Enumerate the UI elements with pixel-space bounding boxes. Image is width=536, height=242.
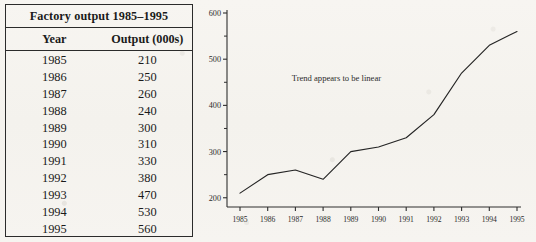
cell-output: 380 xyxy=(103,170,192,187)
x-tick-label: 1988 xyxy=(316,215,331,224)
column-header-output: Output (000s) xyxy=(103,28,192,50)
x-axis: 1985198619871988198919901991199219931994… xyxy=(227,207,525,224)
y-axis: 200300400500600 xyxy=(209,9,227,207)
cell-year: 1987 xyxy=(6,86,103,103)
cell-output: 260 xyxy=(103,86,192,103)
cell-year: 1989 xyxy=(6,120,103,137)
cell-year: 1988 xyxy=(6,103,103,120)
cell-output: 330 xyxy=(103,153,192,170)
output-line-chart: 200300400500600 198519861987198819891990… xyxy=(196,0,536,242)
cell-year: 1995 xyxy=(6,221,103,238)
table-row: 1989300 xyxy=(6,120,192,137)
table-header-row: Year Output (000s) xyxy=(6,28,192,51)
cell-year: 1985 xyxy=(6,52,103,69)
table-row: 1995560 xyxy=(6,221,192,238)
cell-year: 1993 xyxy=(6,187,103,204)
x-tick-label: 1995 xyxy=(509,215,524,224)
series-output xyxy=(240,31,517,193)
cell-year: 1991 xyxy=(6,153,103,170)
table-row: 1993470 xyxy=(6,187,192,204)
factory-output-table: Factory output 1985–1995 Year Output (00… xyxy=(5,4,193,237)
table-row: 1988240 xyxy=(6,103,192,120)
cell-output: 470 xyxy=(103,187,192,204)
y-tick-label: 300 xyxy=(209,148,221,157)
cell-year: 1994 xyxy=(6,204,103,221)
cell-output: 250 xyxy=(103,69,192,86)
table-row: 1994530 xyxy=(6,204,192,221)
x-tick-label: 1986 xyxy=(260,215,275,224)
cell-output: 300 xyxy=(103,120,192,137)
cell-output: 530 xyxy=(103,204,192,221)
table-row: 1987260 xyxy=(6,86,192,103)
x-tick-label: 1994 xyxy=(482,215,497,224)
cell-output: 240 xyxy=(103,103,192,120)
table-row: 1990310 xyxy=(6,136,192,153)
cell-year: 1990 xyxy=(6,136,103,153)
column-header-year: Year xyxy=(6,28,103,50)
y-tick-label: 500 xyxy=(209,55,221,64)
y-tick-label: 200 xyxy=(209,194,221,203)
table-body: 1985210198625019872601988240198930019903… xyxy=(6,51,192,238)
x-tick-label: 1987 xyxy=(288,215,303,224)
cell-output: 210 xyxy=(103,52,192,69)
x-tick-label: 1985 xyxy=(232,215,247,224)
table-row: 1992380 xyxy=(6,170,192,187)
x-tick-label: 1989 xyxy=(343,215,358,224)
x-tick-label: 1992 xyxy=(426,215,441,224)
x-tick-label: 1991 xyxy=(399,215,414,224)
x-tick-label: 1993 xyxy=(454,215,469,224)
annotation-text: Trend appears to be linear xyxy=(292,73,382,83)
table-title: Factory output 1985–1995 xyxy=(6,5,192,28)
y-tick-label: 600 xyxy=(209,9,221,18)
table-row: 1986250 xyxy=(6,69,192,86)
chart-annotation: Trend appears to be linear xyxy=(292,73,382,83)
data-line xyxy=(240,31,517,193)
table-row: 1985210 xyxy=(6,52,192,69)
cell-output: 560 xyxy=(103,221,192,238)
y-tick-label: 400 xyxy=(209,101,221,110)
cell-year: 1992 xyxy=(6,170,103,187)
x-tick-label: 1990 xyxy=(371,215,386,224)
table-row: 1991330 xyxy=(6,153,192,170)
cell-year: 1986 xyxy=(6,69,103,86)
cell-output: 310 xyxy=(103,136,192,153)
